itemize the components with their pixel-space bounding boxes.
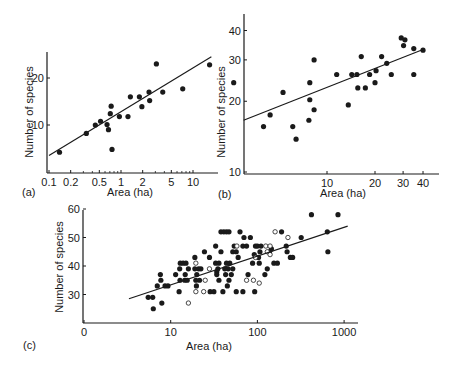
filled-data-point bbox=[309, 212, 314, 217]
data-point bbox=[104, 122, 109, 127]
filled-data-point bbox=[234, 249, 239, 254]
data-point bbox=[125, 114, 130, 119]
open-data-point bbox=[194, 261, 198, 265]
open-data-point bbox=[186, 301, 190, 305]
data-point bbox=[334, 72, 339, 77]
data-point bbox=[180, 86, 185, 91]
data-point bbox=[401, 43, 406, 48]
x-tick-label: 100 bbox=[248, 326, 266, 338]
data-point bbox=[306, 118, 311, 123]
data-point bbox=[261, 124, 266, 129]
panel-b-points bbox=[231, 35, 426, 141]
filled-data-point bbox=[244, 243, 249, 248]
filled-data-point bbox=[275, 261, 280, 266]
data-point bbox=[311, 57, 316, 62]
open-data-point bbox=[201, 289, 205, 293]
panel-a-y-axis-label: Number of species bbox=[23, 66, 35, 158]
y-tick-label: 10 bbox=[229, 166, 241, 178]
panel-a-chart: 0.10.20.512510 1020 Area (ha) Number of … bbox=[22, 52, 218, 198]
filled-data-point bbox=[236, 255, 241, 260]
y-tick-label: 40 bbox=[68, 260, 80, 272]
open-data-point bbox=[244, 278, 248, 282]
filled-data-point bbox=[299, 235, 304, 240]
filled-data-point bbox=[211, 289, 216, 294]
filled-data-point bbox=[192, 255, 197, 260]
filled-data-point bbox=[159, 300, 164, 305]
filled-data-point bbox=[158, 272, 163, 277]
panel-b-regression-line bbox=[244, 50, 423, 121]
panel-a-label: (a) bbox=[22, 186, 35, 198]
x-tick-label: 0.5 bbox=[92, 176, 107, 188]
filled-data-point bbox=[158, 278, 163, 283]
filled-data-point bbox=[213, 243, 218, 248]
panel-a-points bbox=[57, 61, 212, 155]
filled-data-point bbox=[197, 278, 202, 283]
panel-c-y-axis-label: Number of species bbox=[53, 221, 65, 313]
x-tick-label: 20 bbox=[369, 177, 381, 189]
data-point bbox=[346, 102, 351, 107]
panel-b-x-axis-label: Area (ha) bbox=[320, 187, 366, 199]
panel-c-label: (c) bbox=[23, 339, 36, 351]
open-data-point bbox=[235, 244, 239, 248]
data-point bbox=[154, 61, 159, 66]
open-data-point bbox=[268, 244, 272, 248]
open-data-point bbox=[251, 278, 255, 282]
open-data-point bbox=[268, 252, 272, 256]
filled-data-point bbox=[177, 266, 182, 271]
filled-data-point bbox=[257, 249, 262, 254]
data-point bbox=[411, 46, 416, 51]
y-tick-label: 30 bbox=[229, 54, 241, 66]
data-point bbox=[106, 127, 111, 132]
filled-data-point bbox=[284, 249, 289, 254]
data-point bbox=[355, 85, 360, 90]
open-data-point bbox=[194, 289, 198, 293]
data-point bbox=[311, 107, 316, 112]
open-data-point bbox=[207, 267, 211, 271]
filled-data-point bbox=[241, 235, 246, 240]
data-point bbox=[307, 97, 312, 102]
panel-c-regression-line bbox=[129, 226, 348, 299]
filled-data-point bbox=[225, 283, 230, 288]
filled-data-point bbox=[279, 229, 284, 234]
filled-data-point bbox=[207, 255, 212, 260]
open-data-point bbox=[273, 230, 277, 234]
filled-data-point bbox=[237, 229, 242, 234]
filled-data-point bbox=[258, 243, 263, 248]
filled-data-point bbox=[151, 306, 156, 311]
data-point bbox=[108, 111, 113, 116]
open-data-point bbox=[264, 244, 268, 248]
panel-b-y-axis-label: Number of species bbox=[215, 66, 227, 158]
data-point bbox=[128, 94, 133, 99]
data-point bbox=[137, 94, 142, 99]
filled-data-point bbox=[265, 266, 270, 271]
panel-b-label: (b) bbox=[218, 188, 231, 200]
filled-data-point bbox=[216, 278, 221, 283]
data-point bbox=[402, 37, 407, 42]
data-point bbox=[367, 72, 372, 77]
filled-data-point bbox=[177, 289, 182, 294]
x-tick-label: 1000 bbox=[332, 326, 356, 338]
data-point bbox=[363, 85, 368, 90]
filled-data-point bbox=[183, 261, 188, 266]
filled-data-point bbox=[245, 272, 250, 277]
panel-c-x-axis-label: Area (ha) bbox=[186, 340, 232, 352]
filled-data-point bbox=[290, 255, 295, 260]
filled-data-point bbox=[214, 272, 219, 277]
data-point bbox=[139, 104, 144, 109]
x-tick-label: 0.2 bbox=[63, 176, 78, 188]
y-tick-label: 20 bbox=[229, 95, 241, 107]
filled-data-point bbox=[198, 266, 203, 271]
filled-data-point bbox=[230, 266, 235, 271]
data-point bbox=[359, 54, 364, 59]
data-point bbox=[280, 90, 285, 95]
y-tick-label: 50 bbox=[68, 232, 80, 244]
filled-data-point bbox=[250, 261, 255, 266]
filled-data-point bbox=[248, 235, 253, 240]
filled-data-point bbox=[155, 283, 160, 288]
x-tick-label: 5 bbox=[168, 176, 174, 188]
filled-data-point bbox=[335, 212, 340, 217]
filled-data-point bbox=[194, 283, 199, 288]
data-point bbox=[307, 80, 312, 85]
data-point bbox=[117, 114, 122, 119]
data-point bbox=[379, 54, 384, 59]
